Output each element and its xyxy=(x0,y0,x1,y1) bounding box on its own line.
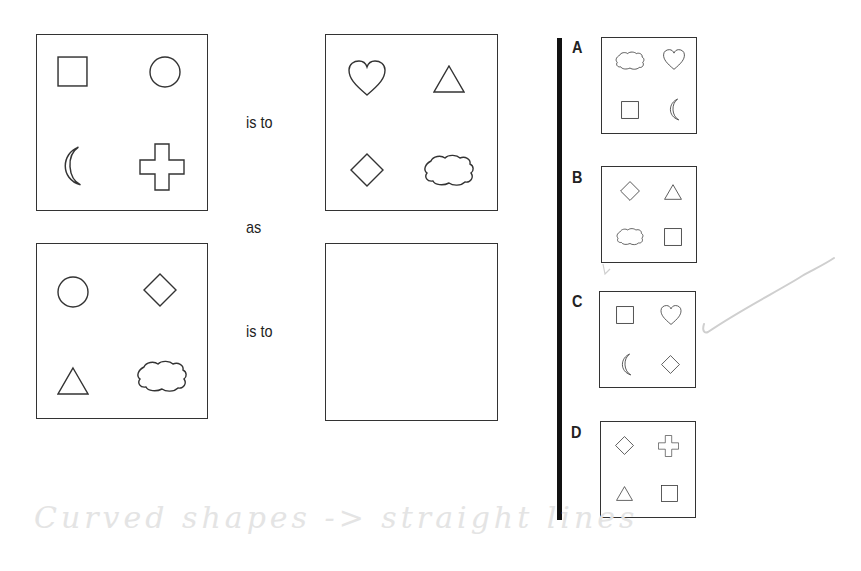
circle-icon xyxy=(149,56,181,88)
option-c-box[interactable] xyxy=(599,291,696,388)
question-box-top-right xyxy=(325,34,498,211)
as-label: as xyxy=(246,218,261,238)
option-b-box[interactable] xyxy=(601,166,697,263)
square-icon xyxy=(616,306,634,324)
option-a-label: A xyxy=(572,38,582,58)
is-to-label: is to xyxy=(246,113,273,133)
diamond-icon xyxy=(620,181,640,201)
question-box-bottom-left xyxy=(36,243,208,419)
crescent-moon-icon xyxy=(57,145,83,187)
handwritten-note: Curved shapes -> straight lines xyxy=(34,500,638,535)
triangle-icon xyxy=(664,184,682,200)
heart-icon xyxy=(660,305,682,325)
diamond-icon xyxy=(615,436,634,455)
option-d-label: D xyxy=(571,423,581,443)
diamond-icon xyxy=(661,355,680,374)
cloud-icon xyxy=(615,50,645,71)
is-to-label: is to xyxy=(246,322,273,342)
diamond-icon xyxy=(143,273,177,307)
divider-bar xyxy=(557,38,562,520)
square-icon xyxy=(57,56,88,87)
option-c-label: C xyxy=(572,292,582,312)
checkmark-icon xyxy=(690,230,861,350)
triangle-icon xyxy=(433,65,465,93)
cloud-icon xyxy=(423,153,475,187)
square-icon xyxy=(621,101,639,119)
triangle-icon xyxy=(616,486,633,501)
cross-icon xyxy=(139,143,185,191)
square-icon xyxy=(661,485,678,502)
cloud-icon xyxy=(136,357,188,395)
option-b-label: B xyxy=(572,168,582,188)
heart-icon xyxy=(663,49,685,70)
answer-box-empty[interactable] xyxy=(325,243,498,421)
cloud-icon xyxy=(616,226,644,247)
triangle-icon xyxy=(57,366,89,396)
square-icon xyxy=(664,228,682,246)
heart-icon xyxy=(348,60,386,96)
tick-mark-icon xyxy=(600,260,620,280)
diamond-icon xyxy=(350,153,384,187)
question-box-top-left xyxy=(36,34,208,211)
option-a-box[interactable] xyxy=(601,37,697,134)
crescent-moon-icon xyxy=(618,353,632,376)
crescent-moon-icon xyxy=(666,98,680,121)
circle-icon xyxy=(57,276,89,308)
cross-icon xyxy=(658,435,679,457)
